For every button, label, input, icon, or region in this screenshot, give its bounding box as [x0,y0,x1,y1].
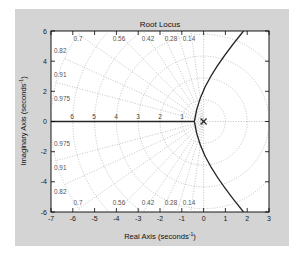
x-tick-label: 2 [245,215,249,222]
damping-label: 0.56 [113,35,126,42]
x-axis-label: Real Axis (seconds-1) [124,231,196,241]
x-tick-label: -1 [179,215,185,222]
x-tick-label: -5 [91,215,97,222]
root-locus-plot: Root Locus [15,9,289,246]
x-tick-label: -2 [157,215,163,222]
damping-label: 0.28 [165,199,178,206]
x-tick-label: -3 [135,215,141,222]
figure-panel: Root Locus [15,9,289,246]
y-tick-label: 0 [43,118,47,125]
plot-title: Root Locus [140,20,180,29]
x-tick-label: 3 [267,215,271,222]
wn-label: 4 [114,113,118,120]
wn-label: 2 [158,113,162,120]
x-tick-label: 0 [202,215,206,222]
wn-label: 5 [92,113,96,120]
x-tick-label: -4 [113,215,119,222]
damping-label: 0.42 [142,35,155,42]
y-tick-label: 2 [43,88,47,95]
damping-label: 0.975 [54,95,70,102]
wn-label: 1 [180,113,184,120]
damping-label: 0.56 [113,199,126,206]
damping-label: 0.14 [183,35,196,42]
y-tick-label: -2 [41,148,47,155]
x-tick-label: 1 [223,215,227,222]
damping-label: 0.7 [74,199,83,206]
damping-label: 0.91 [54,71,67,78]
damping-label: 0.91 [54,164,67,171]
y-tick-label: 4 [43,58,47,65]
x-tick-label: -6 [70,215,76,222]
y-axis-label: Imaginary Axis (seconds-1) [18,76,28,166]
x-tick-label: -7 [48,215,54,222]
wn-label: 3 [136,113,140,120]
y-tick-label: -4 [41,178,47,185]
y-tick-label: 6 [43,28,47,35]
damping-label: 0.82 [54,47,67,54]
damping-label: 0.975 [54,140,70,147]
y-tick-label: -6 [41,209,47,216]
damping-label: 0.82 [54,188,67,195]
damping-label: 0.14 [183,199,196,206]
damping-label: 0.7 [74,35,83,42]
damping-label: 0.28 [165,35,178,42]
damping-label: 0.42 [142,199,155,206]
wn-label: 6 [70,113,74,120]
